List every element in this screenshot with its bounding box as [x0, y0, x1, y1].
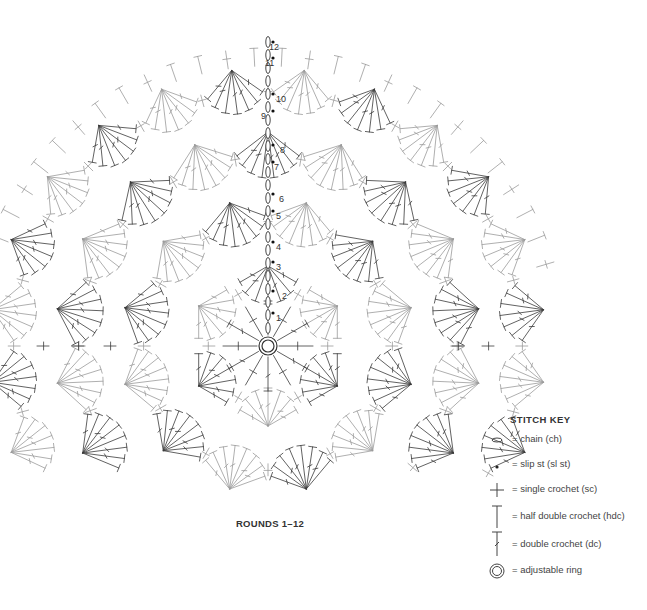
svg-text:6: 6: [279, 194, 284, 204]
svg-text:7: 7: [274, 162, 279, 172]
stitch-key-title: STITCH KEY: [510, 414, 570, 425]
adjustable-ring-icon: [486, 561, 508, 581]
svg-text:10: 10: [276, 94, 286, 104]
svg-text:3: 3: [276, 262, 281, 272]
key-label-single-crochet: = single crochet (sc): [512, 483, 597, 494]
key-label-half-double-crochet: = half double crochet (hdc): [512, 510, 625, 521]
adjustable-ring-icon: [259, 337, 277, 355]
key-item-chain: = chain (ch): [486, 430, 646, 450]
round-start-column: [266, 37, 275, 334]
round-number-labels: 123456789101112: [261, 42, 287, 323]
svg-text:5: 5: [276, 211, 281, 221]
svg-text:2: 2: [282, 291, 287, 301]
key-label-chain: = chain (ch): [512, 433, 562, 444]
half-double-crochet-icon: [486, 504, 508, 530]
svg-text:9: 9: [261, 111, 266, 121]
svg-text:12: 12: [269, 42, 279, 52]
svg-text:1: 1: [276, 313, 281, 323]
key-label-slip-stitch: = slip st (sl st): [512, 458, 570, 469]
slip-stitch-icon: [486, 455, 508, 475]
key-label-adjustable-ring: = adjustable ring: [512, 564, 582, 575]
svg-text:11: 11: [265, 58, 274, 68]
svg-text:8: 8: [280, 145, 285, 155]
key-item-double-crochet: = double crochet (dc): [486, 530, 646, 558]
key-item-slip-stitch: = slip st (sl st): [486, 455, 646, 475]
double-crochet-icon: [486, 530, 508, 558]
svg-text:4: 4: [276, 242, 281, 252]
key-item-adjustable-ring: = adjustable ring: [486, 561, 646, 581]
key-item-single-crochet: = single crochet (sc): [486, 480, 646, 500]
key-label-double-crochet: = double crochet (dc): [512, 538, 602, 549]
diagram-caption: ROUNDS 1–12: [200, 518, 340, 529]
chain-icon: [486, 430, 508, 450]
single-crochet-icon: [486, 480, 508, 500]
key-item-half-double-crochet: = half double crochet (hdc): [486, 504, 646, 530]
